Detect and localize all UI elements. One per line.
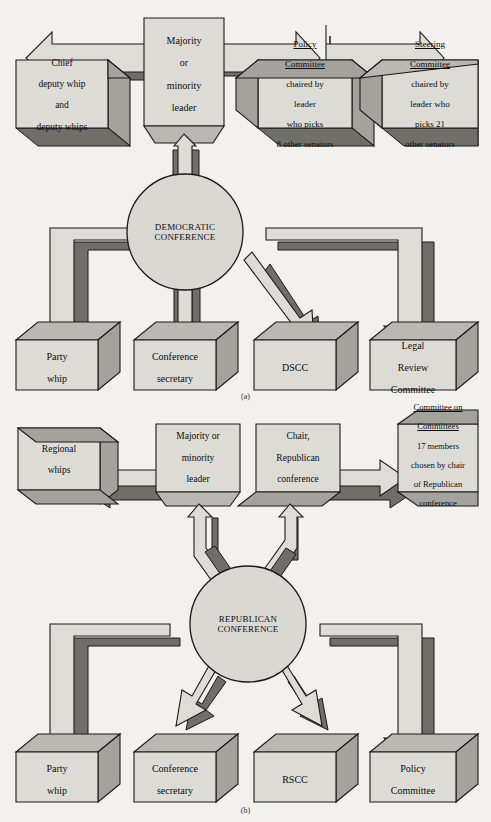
label-legal-review-committee[interactable]: LegalReviewCommittee: [370, 345, 456, 390]
figure-root: .face{fill:#dcdbd6;stroke:#1a1a1a;stroke…: [0, 0, 491, 822]
label-party-whip-a[interactable]: Partywhip: [16, 345, 98, 390]
caption-panel-b: (b): [0, 806, 491, 815]
label-majority-or-minority-leader-b[interactable]: Majority orminorityleader: [156, 428, 240, 488]
label-lines: Majorityorminorityleader: [144, 35, 224, 113]
hub-text: REPUBLICANCONFERENCE: [217, 614, 278, 635]
label-majority-or-minority-leader-a[interactable]: Majorityorminorityleader: [144, 24, 224, 124]
label-republican-conference: REPUBLICANCONFERENCE: [190, 604, 306, 644]
label-policy-committee-b[interactable]: PolicyCommittee: [370, 757, 456, 802]
label-regional-whips[interactable]: Regionalwhips: [18, 430, 100, 490]
label-steering-committee[interactable]: SteeringCommitteechaired byleader whopic…: [382, 60, 478, 128]
label-party-whip-b[interactable]: Partywhip: [16, 757, 98, 802]
hub-text: DEMOCRATICCONFERENCE: [154, 222, 215, 243]
label-chief-deputy-whip-and-deputy-whips[interactable]: Chiefdeputy whipanddeputy whips: [16, 64, 108, 126]
caption-panel-a: (a): [0, 392, 491, 401]
label-dscc[interactable]: DSCC: [254, 345, 336, 390]
label-democratic-conference: DEMOCRATICCONFERENCE: [127, 212, 243, 252]
label-policy-committee-a[interactable]: PolicyCommitteechaired byleaderwho picks…: [258, 60, 352, 128]
label-conference-secretary-b[interactable]: Conferencesecretary: [134, 757, 216, 802]
label-chair-republican-conference[interactable]: Chair,Republicanconference: [256, 428, 340, 488]
label-committee-on-committees[interactable]: Committee onCommittees17 memberschosen b…: [398, 420, 478, 492]
label-rscc[interactable]: RSCC: [254, 757, 336, 802]
label-conference-secretary-a[interactable]: Conferencesecretary: [134, 345, 216, 390]
